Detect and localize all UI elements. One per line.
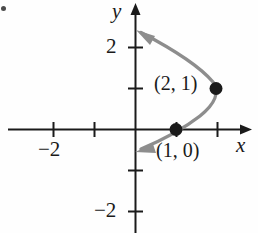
point-vertex (210, 82, 223, 95)
y-axis (131, 3, 141, 233)
x-axis (8, 125, 252, 135)
y-tick-label-pos2: 2 (106, 36, 117, 57)
coordinate-plane (0, 0, 258, 233)
point-label-vertex: (2, 1) (154, 73, 197, 93)
y-axis-label: y (112, 1, 121, 22)
x-axis-label: x (236, 135, 245, 156)
x-tick-label-neg2: −2 (38, 139, 60, 160)
y-tick-label-neg2: −2 (94, 200, 116, 221)
graph-figure: y x −2 2 −2 (2, 1) (1, 0) (0, 0, 258, 233)
point-label-x-intercept: (1, 0) (156, 140, 199, 160)
point-x-intercept (170, 123, 183, 136)
